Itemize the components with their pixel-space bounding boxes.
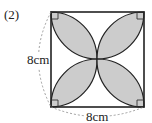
bottom-side-dimension-label: 8cm bbox=[85, 109, 109, 123]
shaded-petals bbox=[51, 12, 144, 107]
four-petal-square-diagram bbox=[0, 0, 152, 123]
left-side-dimension-label: 8cm bbox=[26, 52, 50, 68]
